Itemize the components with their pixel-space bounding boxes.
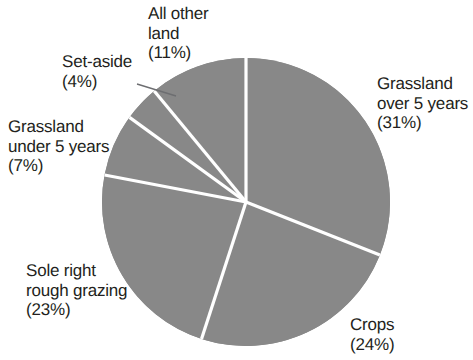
slice-label-sole-right-rough-grazing: Sole right rough grazing (23%) [26, 261, 127, 320]
slice-label-set-aside: Set-aside (4%) [62, 52, 132, 91]
slice-label-crops: Crops (24%) [350, 315, 394, 354]
slice-label-all-other-land: All other land (11%) [148, 4, 209, 63]
slice-label-grassland-over-5-years: Grassland over 5 years (31%) [377, 74, 468, 133]
slice-label-grassland-under-5-years: Grassland under 5 years (7%) [8, 117, 109, 176]
pie-chart: Agricultural land use All other land (11… [0, 0, 473, 360]
